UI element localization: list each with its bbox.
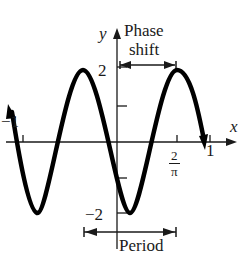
- period-right-arrowhead-icon: [163, 228, 175, 236]
- x-tick-label-2-over-pi: 2 π: [169, 149, 180, 178]
- period-label: Period: [119, 237, 163, 254]
- y-axis-label: y: [99, 25, 107, 42]
- phase-shift-left-arrowhead-icon: [120, 61, 131, 69]
- header-fragment: ”: [137, 0, 144, 7]
- y-axis-arrow-icon: [113, 28, 121, 39]
- fraction-denominator: π: [169, 164, 180, 178]
- y-tick-label-neg2: −2: [85, 206, 103, 223]
- period-left-arrowhead-icon: [85, 228, 97, 236]
- phase-label-line1: Phase: [124, 22, 164, 39]
- phase-label-line2: shift: [129, 41, 159, 58]
- x-tick-label-neg1: −1: [1, 113, 19, 130]
- x-axis-label: x: [230, 118, 238, 135]
- y-tick-label-2: 2: [98, 62, 107, 79]
- x-axis-arrow-icon: [226, 138, 237, 146]
- x-tick-label-1: 1: [206, 142, 215, 159]
- fraction-numerator: 2: [169, 149, 180, 164]
- phase-shift-right-arrowhead-icon: [164, 61, 175, 69]
